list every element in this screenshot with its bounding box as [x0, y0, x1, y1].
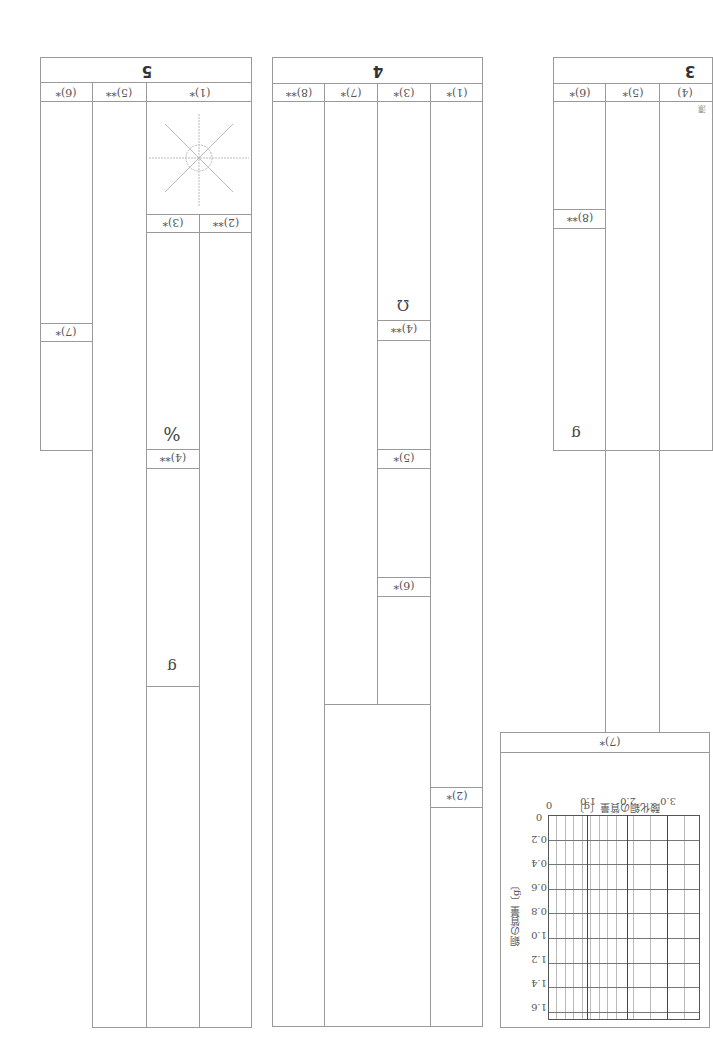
s5-q7-answer-field[interactable] [41, 342, 91, 450]
section-3-number: 3 [680, 62, 700, 80]
s3-q5-label: (5)* [615, 86, 651, 99]
s4-q3-answer-field[interactable] [378, 102, 429, 318]
s3-q8-label: (8)** [560, 211, 600, 224]
s4-q4-unit: Ω [393, 296, 413, 314]
s4-q4-answer-field[interactable] [378, 341, 429, 448]
s4-q1-answer-field[interactable] [431, 102, 481, 786]
s4-q8-label: (8)** [279, 86, 319, 99]
s3-q6-answer-field[interactable] [554, 102, 604, 202]
s3-q4-answer-field[interactable] [660, 102, 706, 732]
s4-q2-answer-field[interactable] [431, 808, 481, 1026]
s5-q5-answer-field[interactable] [93, 102, 145, 1026]
s4-q3-label: (3)* [384, 86, 424, 99]
s3-q7-graph-grid[interactable] [548, 815, 700, 1020]
s4-q5-answer-field[interactable] [378, 469, 429, 576]
s3-q7-y-axis-title: 酸化銅の質量〔g〕 [600, 766, 660, 816]
s4-q8-answer-field[interactable] [273, 102, 323, 1026]
s5-q3-answer-field[interactable] [147, 233, 198, 448]
s5-q6-answer-field[interactable] [41, 102, 91, 322]
s3-q7-label: (7)* [590, 735, 630, 748]
s5-q6-label: (6)* [46, 86, 86, 99]
s5-q1-compass-diagram[interactable] [147, 102, 251, 214]
s4-q2-label: (2)* [437, 789, 477, 802]
s4-q1-label: (1)* [437, 86, 477, 99]
s5-q5-label: (5)** [99, 86, 139, 99]
section-4-number: 4 [368, 62, 388, 80]
s4-q6-answer-field[interactable] [378, 597, 429, 704]
s5-q7-label: (7)* [46, 325, 86, 338]
s4-q5-label: (5)* [384, 451, 424, 464]
s3-q4-label: (4) [670, 86, 700, 99]
s5-q4-answer-field[interactable] [147, 469, 198, 685]
s3-q8-unit: g [566, 425, 586, 443]
s3-q5-answer-field[interactable] [606, 102, 658, 732]
s5-q3-label: (3)* [153, 216, 193, 229]
s3-q6-label: (6)* [562, 86, 598, 99]
s3-q8-answer-field[interactable] [554, 229, 604, 449]
section-5-number: 5 [137, 62, 157, 80]
s5-q3-unit: % [160, 423, 184, 444]
s5-q2-label: (2)** [206, 216, 246, 229]
s4-q4-label: (4)** [384, 322, 424, 335]
s5-q2-answer-field[interactable] [200, 233, 250, 1026]
s5-q1-label: (1)* [180, 86, 220, 99]
s5-q4-label: (4)** [153, 451, 193, 464]
s5-q4-unit: g [162, 658, 182, 676]
s3-q7-x-axis-title: 銅の質量〔g〕 [508, 868, 522, 958]
s4-q6-label: (6)* [384, 579, 424, 592]
s4-q7-answer-field[interactable] [325, 102, 376, 704]
s4-q7-label: (7)* [331, 86, 371, 99]
